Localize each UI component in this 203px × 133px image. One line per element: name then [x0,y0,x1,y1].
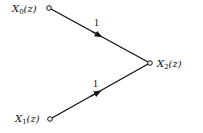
node-label-x0: X0(z) [11,3,37,16]
edge-gain-label: 1 [93,78,98,89]
arrow-icon [91,92,98,96]
signal-flow-graph: 1 1 X0(z) X1(z) X2(z) [0,0,203,133]
node-label-x1: X1(z) [14,113,40,126]
edge-x1-to-x2: 1 [52,64,148,118]
node-x0 [47,6,52,11]
node-label-x2: X2(z) [156,58,182,71]
arrow-icon [92,32,99,36]
edge-gain-label: 1 [94,17,99,28]
node-x2 [148,61,153,66]
node-x1 [48,117,53,122]
branch-line [51,9,148,62]
branch-line [52,64,148,118]
edge-x0-to-x2: 1 [51,9,148,62]
